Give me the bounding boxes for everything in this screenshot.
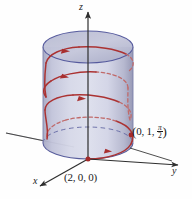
point-label-start: (2, 0, 0) xyxy=(64,172,97,183)
axis-y-label: y xyxy=(172,166,176,176)
fraction-pi-over-two: π2 xyxy=(157,124,163,140)
marker-point-start xyxy=(86,157,91,162)
figure-canvas: z y x (2, 0, 0) (0, 1, π2) xyxy=(0,0,192,199)
fraction-numerator: π xyxy=(157,124,163,132)
leader-line-y xyxy=(130,148,172,161)
paren-open: ( xyxy=(132,124,136,139)
point-label-quarter: (0, 1, π2) xyxy=(132,124,167,141)
fraction-denominator: 2 xyxy=(157,131,163,140)
point-quarter-prefix: 0, 1, xyxy=(136,125,157,137)
vector-graphic xyxy=(0,0,192,199)
axis-x-label: x xyxy=(33,176,37,186)
paren-close: ) xyxy=(163,124,167,139)
axis-y xyxy=(88,159,178,165)
axis-z-label: z xyxy=(79,2,83,12)
